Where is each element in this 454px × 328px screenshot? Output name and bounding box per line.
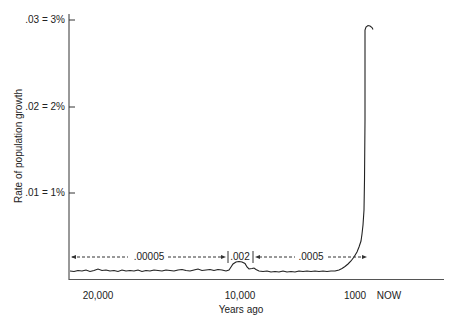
population-growth-chart: .03 = 3% .02 = 2% .01 = 1% Rate of popul… (0, 0, 454, 328)
x-tick-label-1000: 1000 (344, 290, 367, 301)
arrowhead-right-icon (362, 255, 367, 259)
x-axis-title: Years ago (219, 304, 264, 315)
y-axis-title: Rate of population growth (13, 89, 24, 203)
x-tick-label-20000: 20,000 (83, 290, 114, 301)
y-tick-label-2pct: .02 = 2% (25, 101, 65, 112)
growth-rate-curve (70, 26, 373, 273)
x-tick-label-now: NOW (377, 290, 402, 301)
y-tick-label-1pct: .01 = 1% (25, 187, 65, 198)
span-002-label: .002 (230, 251, 250, 262)
y-tick-label-3pct: .03 = 3% (25, 14, 65, 25)
x-tick-label-10000: 10,000 (225, 290, 256, 301)
arrowhead-right-icon (221, 255, 226, 259)
arrowhead-left-icon (71, 255, 76, 259)
span-0005-label: .0005 (298, 251, 323, 262)
span-00005-label: .00005 (134, 251, 165, 262)
